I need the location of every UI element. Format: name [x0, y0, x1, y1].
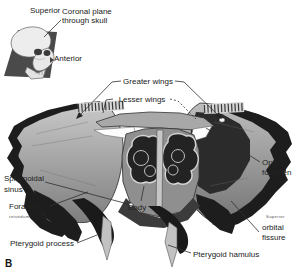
sphenoid-bone-diagram: Superior Coronal plane through skull Ant… — [0, 0, 300, 273]
superior-orbital-fissure-label-line3: fissure — [262, 233, 286, 242]
lesser-wings-label: Lesser wings — [119, 95, 166, 104]
body-label: Body — [128, 203, 146, 212]
superior-label: Superior — [30, 6, 61, 15]
greater-wings-label: Greater wings — [123, 77, 173, 86]
coronal-plane-label-line2: through skull — [62, 16, 108, 25]
sphenoidal-sinus-label-line2: sinus — [4, 185, 23, 194]
pterygoid-process-label: Pterygoid process — [10, 239, 74, 248]
panel-letter: B — [5, 258, 12, 269]
optic-foramen-label-line1: Optic — [262, 158, 281, 167]
anterior-label: Anterior — [54, 54, 82, 63]
superior-orbital-fissure-label-line2: orbital — [262, 223, 284, 232]
foramen-label: Foramen — [9, 202, 41, 211]
optic-foramen-label-line2: foramen — [262, 168, 291, 177]
pterygoid-hamulus-label: Pterygoid hamulus — [193, 250, 259, 259]
optic-foramen-opening — [219, 118, 225, 123]
sinus-septum — [156, 130, 163, 215]
anatomy-figure-panel: Superior Coronal plane through skull Ant… — [0, 0, 300, 273]
skull-eye-socket-right — [44, 50, 51, 56]
foramen-label-sub: rotundum — [9, 214, 30, 219]
superior-orbital-fissure-label-line1: Superior — [266, 214, 285, 219]
coronal-plane-label-line1: Coronal plane — [62, 7, 112, 16]
sphenoidal-sinus-label-line1: Sphenoidal — [4, 174, 44, 183]
skull-eye-socket-left — [34, 49, 42, 55]
